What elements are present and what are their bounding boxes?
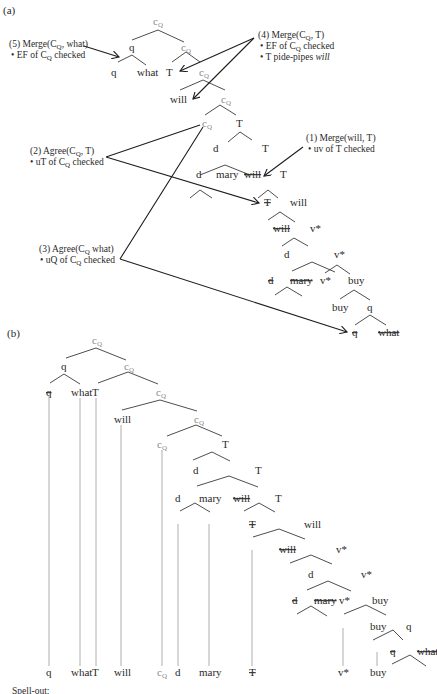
- spell-d: d: [175, 666, 181, 678]
- b-node-buy-2: buy: [370, 620, 387, 632]
- b-node-d-leaf: d: [175, 492, 181, 504]
- node-will: will: [170, 93, 187, 105]
- b-node-mary-struck: mary: [314, 594, 337, 606]
- b-node-will-struck-2: will: [279, 543, 296, 555]
- node-T: T: [166, 66, 173, 78]
- b-node-T-struck: T: [249, 518, 256, 530]
- node-q-leaf: q: [111, 66, 117, 78]
- spellout-row: q what T will cQ d mary T v* buy: [46, 666, 387, 680]
- b-node-buy: buy: [372, 594, 389, 606]
- b-node-T: T: [92, 386, 99, 398]
- b-node-q-2: q: [406, 620, 412, 632]
- b-node-vstar-2: v*: [361, 568, 372, 580]
- arrow-4a: [180, 38, 254, 71]
- b-node-vstar: v*: [336, 543, 347, 555]
- tree-a-nodes: cQ q cQ q what T cQ will cQ cQ T d T d m…: [111, 15, 399, 338]
- b-node-will-2: will: [304, 518, 321, 530]
- svg-text:• T pide-pipes will: • T pide-pipes will: [260, 52, 330, 62]
- node-d: d: [213, 142, 219, 154]
- node-T-4: T: [280, 168, 287, 180]
- node-d-struck: d: [268, 274, 274, 286]
- b-node-d: d: [193, 464, 199, 476]
- node-vstar-2: v*: [334, 248, 345, 260]
- panel-b-label: (b): [7, 327, 20, 340]
- spell-cq: cQ: [157, 666, 167, 680]
- arrow-2: [106, 125, 259, 203]
- annotation-1: (1) Merge(will, T) • uv of T checked: [306, 133, 376, 154]
- b-node-T-2: T: [222, 438, 229, 450]
- spell-T-struck: T: [249, 666, 256, 678]
- spell-T: T: [92, 666, 99, 678]
- b-node-d-2: d: [308, 568, 314, 580]
- b-node-cq-2: cQ: [156, 386, 166, 400]
- spell-q: q: [46, 666, 52, 678]
- node-vstar-3: v*: [320, 274, 331, 286]
- node-cq-4: cQ: [202, 117, 212, 131]
- b-node-cq-4: cQ: [157, 438, 167, 452]
- svg-text:• uT of CQ checked: • uT of CQ checked: [30, 157, 104, 169]
- node-will-2: will: [290, 196, 307, 208]
- annotation-5: (5) Merge(CQ, what) • EF of CQ checked: [9, 39, 88, 62]
- b-node-cq-3: cQ: [194, 413, 204, 427]
- b-node-will-struck: will: [233, 492, 250, 504]
- node-mary-struck: mary: [290, 274, 313, 286]
- b-node-what: what: [71, 386, 92, 398]
- annotation-2: (2) Agree(CQ, T) • uT of CQ checked: [30, 146, 104, 169]
- node-q: q: [129, 41, 135, 53]
- tree-b-nodes: cQ q cQ q what T cQ will cQ cQ T d T d m…: [46, 334, 437, 657]
- spell-will: will: [114, 666, 131, 678]
- b-node-d-struck: d: [292, 594, 298, 606]
- b-node-cq-root: cQ: [92, 334, 102, 348]
- node-T-struck: T: [264, 196, 271, 208]
- node-will-struck: will: [244, 168, 261, 180]
- node-q-struck: q: [352, 326, 358, 338]
- node-T-3: T: [262, 142, 269, 154]
- svg-text:• uv of T checked: • uv of T checked: [308, 144, 375, 154]
- spell-vstar: v*: [338, 666, 349, 678]
- node-cq-root: cQ: [153, 15, 163, 29]
- node-mary: mary: [216, 168, 239, 180]
- annotation-3: (3) Agree(CQ what) • uQ of CQ checked: [39, 244, 115, 267]
- svg-text:• EF of CQ checked: • EF of CQ checked: [11, 50, 86, 62]
- b-node-q: q: [61, 360, 67, 372]
- node-will-struck-2: will: [273, 222, 290, 234]
- b-node-T-4: T: [275, 492, 282, 504]
- b-node-q-struck: q: [46, 386, 52, 398]
- node-T-2: T: [236, 117, 243, 129]
- b-node-T-3: T: [255, 464, 262, 476]
- node-cq: cQ: [181, 41, 191, 55]
- b-node-will: will: [114, 413, 131, 425]
- svg-text:• uQ of CQ checked: • uQ of CQ checked: [40, 255, 115, 267]
- b-node-what-struck: what: [417, 645, 437, 657]
- tree-b-edges: [50, 348, 426, 666]
- b-node-q-struck-2: q: [390, 645, 396, 657]
- node-buy-2: buy: [332, 301, 349, 313]
- tree-a-arrows: [84, 38, 347, 332]
- b-node-mary: mary: [199, 492, 222, 504]
- spellout-lines: [49, 396, 377, 666]
- node-cq-3: cQ: [221, 93, 231, 107]
- node-q-2: q: [367, 301, 373, 313]
- annotation-4: (4) Merge(CQ, T) • EF of CQ checked • T …: [258, 30, 335, 62]
- node-cq-2: cQ: [199, 66, 209, 80]
- svg-text:(1) Merge(will, T): (1) Merge(will, T): [306, 133, 376, 144]
- spell-mary: mary: [199, 666, 222, 678]
- b-node-vstar-3: v*: [339, 594, 350, 606]
- node-vstar: v*: [310, 222, 321, 234]
- spell-buy: buy: [370, 666, 387, 678]
- node-buy: buy: [348, 274, 365, 286]
- node-what-struck: what: [378, 326, 399, 338]
- node-d-leaf: d: [196, 168, 202, 180]
- spellout-label: Spell-out:: [12, 686, 49, 694]
- b-node-cq: cQ: [124, 360, 134, 374]
- node-d-2: d: [284, 248, 290, 260]
- arrow-5: [84, 46, 119, 57]
- node-what: what: [137, 66, 158, 78]
- panel-a-label: (a): [3, 4, 16, 17]
- syntax-tree-diagram: (a) cQ q cQ q what T cQ will cQ cQ T d T…: [0, 0, 437, 694]
- spell-what: what: [71, 666, 92, 678]
